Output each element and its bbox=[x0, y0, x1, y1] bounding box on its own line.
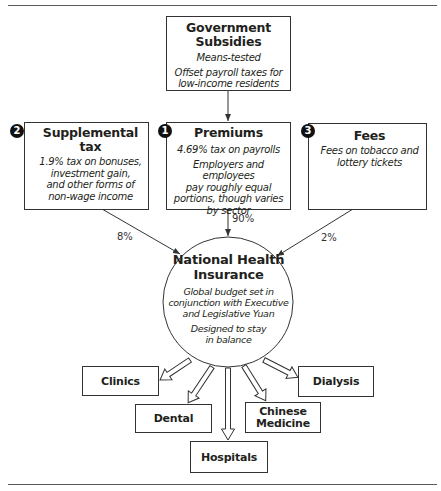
nhi-desc-2: Designed to stay in balance bbox=[163, 323, 294, 345]
premiums-desc-1: 4.69% tax on payrolls bbox=[167, 144, 290, 156]
desc-line: portions, though varies bbox=[167, 193, 290, 205]
label-line: Medicine bbox=[246, 418, 320, 430]
government-subsidies-title: Government Subsidies bbox=[167, 21, 290, 49]
badge-1: 1 bbox=[158, 124, 172, 138]
dental-box: Dental bbox=[135, 404, 212, 433]
desc-line: lottery tickets bbox=[313, 157, 426, 169]
government-subsidies-desc-2: Offset payroll taxes for low-income resi… bbox=[167, 67, 290, 90]
dialysis-box: Dialysis bbox=[298, 366, 374, 397]
desc-line: Designed to stay bbox=[163, 323, 294, 334]
supplemental-tax-box: Supplemental tax 1.9% tax on bonuses, in… bbox=[24, 122, 149, 210]
desc-line: conjunction with Executive bbox=[163, 297, 294, 308]
arrow-fees-to-nhi bbox=[277, 209, 353, 256]
premiums-title: Premiums bbox=[167, 126, 290, 140]
hollow-arrow-to-dialysis bbox=[261, 354, 301, 383]
desc-line: and Legislative Yuan bbox=[163, 308, 294, 319]
dental-label: Dental bbox=[136, 412, 211, 425]
nhi-desc-1: Global budget set in conjunction with Ex… bbox=[163, 286, 294, 319]
government-subsidies-desc-1: Means-tested bbox=[167, 52, 290, 64]
share-label-supplemental: 8% bbox=[117, 231, 133, 242]
hospitals-label: Hospitals bbox=[191, 451, 267, 464]
hollow-arrow-to-hospitals bbox=[222, 368, 235, 440]
desc-line: Employers and employees bbox=[167, 159, 290, 182]
clinics-box: Clinics bbox=[82, 366, 159, 396]
share-label-fees: 2% bbox=[321, 232, 337, 243]
desc-line: in balance bbox=[163, 334, 294, 345]
fees-desc: Fees on tobacco and lottery tickets bbox=[313, 145, 426, 168]
dialysis-label: Dialysis bbox=[299, 375, 373, 388]
fees-box: Fees Fees on tobacco and lottery tickets bbox=[308, 123, 427, 210]
hollow-arrow-to-chinese-medicine bbox=[238, 363, 271, 405]
title-line: Subsidies bbox=[167, 35, 290, 49]
desc-line: 1.9% tax on bonuses, bbox=[33, 156, 148, 168]
desc-line: and other forms of bbox=[33, 179, 148, 191]
premiums-box: Premiums 4.69% tax on payrolls Employers… bbox=[166, 122, 291, 210]
supplemental-tax-title: Supplemental tax bbox=[33, 126, 148, 154]
nhi-content: National Health Insurance Global budget … bbox=[163, 252, 294, 345]
desc-line: non-wage income bbox=[33, 191, 148, 203]
desc-line: low-income residents bbox=[167, 78, 290, 90]
clinics-label: Clinics bbox=[83, 375, 158, 388]
badge-2: 2 bbox=[10, 124, 24, 138]
title-line: Government bbox=[167, 21, 290, 35]
share-label-premiums: 90% bbox=[232, 213, 254, 224]
title-line: National Health bbox=[163, 252, 294, 267]
desc-line: Offset payroll taxes for bbox=[167, 67, 290, 79]
badge-3: 3 bbox=[301, 124, 315, 138]
hollow-arrow-to-dental bbox=[183, 363, 218, 406]
supplemental-tax-desc: 1.9% tax on bonuses, investment gain, an… bbox=[33, 156, 148, 202]
desc-line: by sector bbox=[167, 205, 290, 217]
desc-line: Global budget set in bbox=[163, 286, 294, 297]
hospitals-box: Hospitals bbox=[190, 441, 268, 473]
desc-line: Fees on tobacco and bbox=[313, 145, 426, 157]
hollow-arrow-to-clinics bbox=[156, 355, 193, 386]
chinese-medicine-box: Chinese Medicine bbox=[245, 402, 321, 433]
title-line: Insurance bbox=[163, 267, 294, 282]
government-subsidies-box: Government Subsidies Means-tested Offset… bbox=[166, 16, 291, 91]
desc-line: pay roughly equal bbox=[167, 182, 290, 194]
chinese-medicine-label: Chinese Medicine bbox=[246, 406, 320, 430]
premiums-desc-2: Employers and employees pay roughly equa… bbox=[167, 159, 290, 217]
desc-line: investment gain, bbox=[33, 168, 148, 180]
label-line: Chinese bbox=[246, 406, 320, 418]
fees-title: Fees bbox=[313, 129, 426, 143]
nhi-title: National Health Insurance bbox=[163, 252, 294, 282]
